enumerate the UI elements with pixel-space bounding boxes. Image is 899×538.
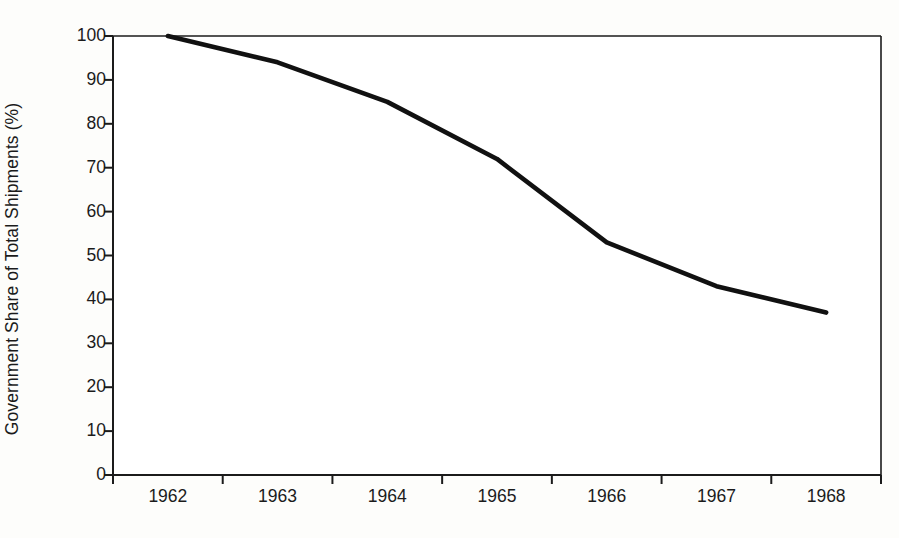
x-axis-tick-label: 1968 [807, 488, 846, 506]
x-axis-tick-label: 1965 [478, 488, 517, 506]
x-axis-tick-label: 1966 [587, 488, 626, 506]
x-axis-tick-label: 1962 [148, 488, 187, 506]
plot-area [0, 0, 899, 538]
x-axis-tick-label: 1967 [697, 488, 736, 506]
y-axis-ticks [104, 36, 113, 475]
x-axis-tick-label: 1963 [258, 488, 297, 506]
x-axis-tick-label: 1964 [368, 488, 407, 506]
chart-figure: Government Share of Total Shipments (%) … [0, 0, 899, 538]
x-axis-ticks [113, 475, 881, 484]
x-axis-tick-labels: 1962196319641965196619671968 [0, 488, 899, 516]
plot-background [113, 36, 881, 475]
